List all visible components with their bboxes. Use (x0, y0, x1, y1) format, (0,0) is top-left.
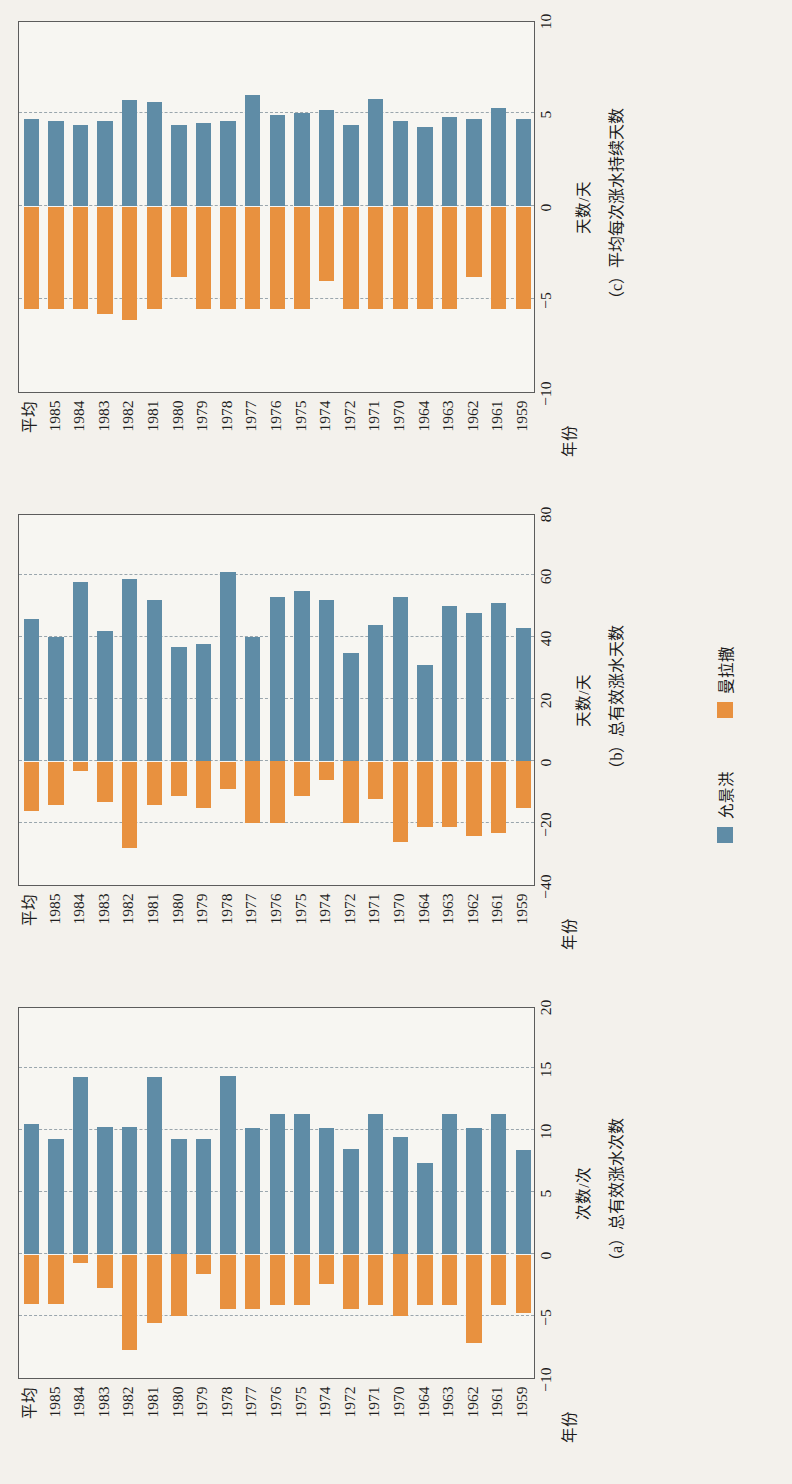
bar-row (44, 23, 69, 393)
bar-positive (48, 121, 64, 207)
bar-positive (171, 125, 187, 207)
bar-negative (122, 762, 138, 849)
bar-negative (97, 762, 113, 802)
category-tick-label: 1980 (166, 887, 191, 975)
legend-label: 允景洪 (714, 771, 736, 819)
y-axis-title-c: 年份 (557, 396, 579, 486)
category-axis-a: 平均19851984198319821981198019791978197719… (18, 1380, 535, 1468)
bar-negative (24, 1255, 40, 1305)
category-tick-label: 1963 (436, 1380, 461, 1468)
bar-negative (491, 207, 507, 309)
bar-row (117, 516, 142, 886)
bar-row (19, 1009, 44, 1379)
bar-row (93, 23, 118, 393)
bar-negative (24, 207, 40, 309)
bar-positive (147, 1077, 163, 1254)
bar-row (511, 23, 536, 393)
bar-positive (368, 1114, 384, 1254)
bar-negative (417, 207, 433, 309)
bar-positive (319, 1128, 335, 1254)
bar-negative (368, 1255, 384, 1306)
bar-positive (491, 108, 507, 207)
bar-positive (466, 1128, 482, 1254)
bar-row (413, 516, 438, 886)
bar-row (216, 516, 241, 886)
category-tick-label: 1974 (313, 394, 338, 482)
bar-positive (417, 127, 433, 207)
category-tick-label: 1975 (289, 1380, 314, 1468)
category-tick-label: 1962 (461, 1380, 486, 1468)
bar-negative (220, 1255, 236, 1310)
category-tick-label: 1975 (289, 887, 314, 975)
category-tick-label: 1981 (141, 887, 166, 975)
value-tick-label: 0 (537, 1252, 555, 1260)
bar-negative (147, 1255, 163, 1323)
bar-negative (466, 207, 482, 278)
bar-positive (270, 1114, 286, 1254)
bar-positive (97, 121, 113, 207)
plot-area-c: 平均19851984198319821981198019791978197719… (18, 22, 535, 482)
bar-positive (122, 100, 138, 206)
bar-negative (220, 207, 236, 309)
bar-row (511, 1009, 536, 1379)
bar-row (339, 516, 364, 886)
category-tick-label: 1978 (215, 394, 240, 482)
bar-row (388, 23, 413, 393)
category-tick-label: 1985 (43, 1380, 68, 1468)
bar-negative (516, 762, 532, 809)
category-tick-label: 1964 (412, 1380, 437, 1468)
bar-positive (516, 119, 532, 206)
category-tick-label: 1976 (264, 887, 289, 975)
value-tick-label: 20 (537, 1000, 555, 1016)
category-tick-label: 1974 (313, 887, 338, 975)
bar-negative (73, 762, 89, 771)
bar-negative (442, 207, 458, 309)
value-axis-unit-b: 天数/天 (571, 515, 593, 887)
bar-positive (48, 1139, 64, 1254)
bar-negative (245, 207, 261, 309)
bar-negative (73, 1255, 89, 1264)
y-axis-title-a: 年份 (557, 1382, 579, 1472)
bar-positive (491, 603, 507, 761)
plot-area-a: 平均19851984198319821981198019791978197719… (18, 1008, 535, 1468)
bar-row (314, 516, 339, 886)
bar-positive (368, 99, 384, 207)
value-tick-label: −20 (537, 812, 555, 836)
chart-title-a: （a）总有效涨水次数 (603, 1008, 627, 1380)
bar-positive (270, 115, 286, 206)
bar-row (117, 23, 142, 393)
bar-negative (48, 207, 64, 309)
bar-row (437, 23, 462, 393)
category-tick-label: 1972 (338, 887, 363, 975)
bar-row (142, 1009, 167, 1379)
bar-positive (270, 597, 286, 761)
value-tick-label: 15 (537, 1062, 555, 1078)
bar-positive (196, 1139, 212, 1254)
bar-row (363, 516, 388, 886)
bar-row (142, 23, 167, 393)
bar-negative (73, 207, 89, 309)
value-axis-c: −10−50510 (535, 22, 569, 394)
value-axis-unit-a: 次数/次 (571, 1008, 593, 1380)
category-tick-label: 1983 (92, 394, 117, 482)
bar-row (486, 516, 511, 886)
bar-positive (393, 597, 409, 761)
bar-positive (442, 1114, 458, 1254)
bar-negative (393, 1255, 409, 1317)
category-tick-label: 1984 (67, 1380, 92, 1468)
bar-positive (73, 125, 89, 207)
y-axis-title-b: 年份 (557, 889, 579, 979)
bar-row (191, 1009, 216, 1379)
category-tick-label: 1976 (264, 1380, 289, 1468)
bar-negative (343, 1255, 359, 1310)
category-tick-label: 1962 (461, 887, 486, 975)
value-axis-a: −10−505101520 (535, 1008, 569, 1380)
legend-item: 曼拉撒 (714, 646, 736, 719)
bar-positive (196, 123, 212, 207)
value-tick-label: 0 (537, 204, 555, 212)
bar-row (167, 23, 192, 393)
bar-row (314, 23, 339, 393)
category-tick-label: 1983 (92, 887, 117, 975)
bar-negative (97, 1255, 113, 1288)
category-tick-label: 1981 (141, 1380, 166, 1468)
